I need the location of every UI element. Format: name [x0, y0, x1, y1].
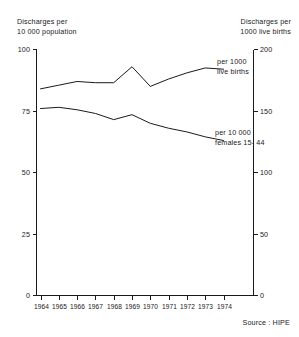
- right-tick-label: 150: [260, 107, 272, 116]
- x-tick-label: 1969: [125, 303, 140, 310]
- left-tick-label: 100: [18, 45, 30, 54]
- left-tick-label: 75: [22, 107, 30, 116]
- x-tick-label: 1971: [162, 303, 177, 310]
- x-tick-label: 1965: [52, 303, 67, 310]
- axis-layer: 0255075100050100150200196419651966196719…: [18, 45, 273, 309]
- x-tick-label: 1970: [143, 303, 158, 310]
- chart-container: Discharges per 10 000 population Dischar…: [0, 0, 299, 337]
- left-tick-label: 50: [22, 168, 30, 177]
- x-tick-label: 1974: [217, 303, 232, 310]
- source-note: Source : HIPE: [243, 318, 291, 327]
- series-layer: [41, 67, 224, 141]
- right-tick-label: 50: [260, 230, 268, 239]
- left-axis-caption: Discharges per 10 000 population: [17, 17, 77, 36]
- right-tick-label: 100: [260, 168, 272, 177]
- series-label-live-births: per 1000 live births: [217, 57, 249, 76]
- x-tick-label: 1964: [34, 303, 49, 310]
- x-tick-label: 1966: [70, 303, 85, 310]
- series-line-2: [41, 107, 224, 140]
- x-tick-label: 1972: [180, 303, 195, 310]
- x-tick-label: 1967: [88, 303, 103, 310]
- x-tick-label: 1968: [107, 303, 122, 310]
- right-tick-label: 200: [260, 45, 272, 54]
- right-axis-caption: Discharges per 1000 live births: [240, 17, 291, 36]
- left-tick-label: 25: [22, 230, 30, 239]
- series-line-1: [41, 67, 224, 89]
- x-tick-label: 1973: [198, 303, 213, 310]
- left-tick-label: 0: [26, 291, 30, 300]
- series-label-females: per 10 000 females 15- 44: [215, 128, 265, 147]
- right-tick-label: 0: [260, 291, 264, 300]
- plot-area: 0255075100050100150200196419651966196719…: [0, 0, 299, 337]
